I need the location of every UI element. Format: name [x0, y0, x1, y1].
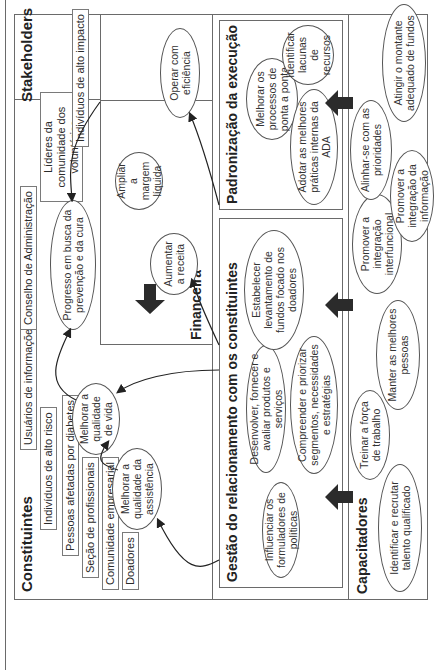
connector-arrows: [0, 0, 440, 670]
strategy-map-diagram: Constituintes Stakeholders Doadores Comu…: [0, 0, 440, 670]
